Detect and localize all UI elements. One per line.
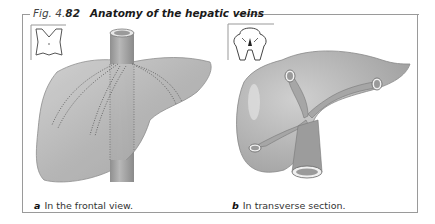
- liver-transverse-section-illustration: [222, 20, 418, 195]
- caption-a-text: In the frontal view.: [44, 200, 133, 211]
- caption-a: aIn the frontal view.: [34, 200, 133, 211]
- liver-frontal-view-illustration: [22, 20, 222, 195]
- caption-a-letter: a: [34, 200, 40, 211]
- figure-title-text: Anatomy of the hepatic veins: [90, 7, 264, 19]
- figure-label: Fig. 4.: [33, 7, 65, 19]
- panel-b: [222, 20, 418, 195]
- caption-b: bIn transverse section.: [232, 200, 346, 211]
- transverse-section-orientation-icon: [228, 24, 274, 60]
- caption-b-letter: b: [232, 200, 239, 211]
- figure-title: Fig. 4.82Anatomy of the hepatic veins: [33, 6, 264, 20]
- torso-orientation-icon: [31, 25, 66, 60]
- panel-a: [22, 20, 222, 195]
- figure-number: 82: [65, 7, 80, 19]
- caption-b-text: In transverse section.: [243, 200, 346, 211]
